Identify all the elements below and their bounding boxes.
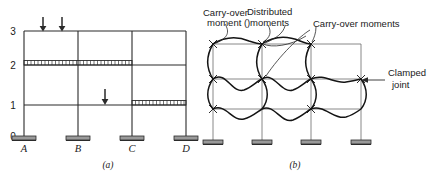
deflected-beam-1-bay2 [262, 108, 311, 121]
joint-clamp-marks [209, 40, 365, 113]
level-label-1: 1 [10, 100, 16, 111]
support-a [12, 136, 36, 141]
support-c [120, 136, 144, 141]
panel-a: 3 2 1 0 [10, 17, 198, 171]
support-b2 [252, 140, 272, 145]
point-load-2 [59, 17, 66, 32]
support-b3 [301, 140, 321, 145]
structural-frame-figure: 3 2 1 0 [0, 0, 430, 179]
column-label-d: D [181, 143, 190, 154]
frame-a-columns [24, 31, 186, 136]
level-label-2: 2 [10, 60, 16, 71]
column-label-c: C [128, 143, 136, 154]
label-clamped-line2: joint [391, 79, 410, 90]
deflected-beam-2-bay3 [311, 77, 361, 82]
leader-carry-over-long [266, 30, 310, 76]
frame-b-reference [213, 44, 361, 140]
column-label-a: A [20, 143, 28, 154]
frame-a-supports [12, 136, 198, 141]
deflected-col-4-story2 [361, 79, 366, 109]
support-b1 [203, 140, 223, 145]
label-clamped-line1: Clamped [388, 67, 426, 78]
column-label-b: B [75, 143, 82, 154]
label-distributed-line2: moments [250, 17, 289, 28]
clamped-joint-pointer [361, 77, 385, 83]
annotation-leaders [216, 24, 316, 76]
point-load-1 [40, 17, 47, 32]
deflected-col-3-story2 [311, 79, 316, 109]
deflected-beam-1-bay1 [213, 108, 262, 120]
label-carry-over-moments: Carry-over moments [313, 18, 400, 29]
label-paren-1: ) [247, 17, 250, 28]
deflected-col-3-story3 [306, 44, 311, 79]
frame-b-supports [203, 140, 371, 145]
caption-b: (b) [289, 160, 300, 171]
deflected-col-1-story2 [208, 79, 213, 109]
deflected-beam-1-bay3 [311, 108, 361, 117]
label-carry-over-moment-line2: moment [207, 17, 242, 28]
level-label-3: 3 [10, 26, 16, 37]
label-distributed-line1: Distributed [247, 6, 292, 17]
deflected-col-1-story3 [208, 44, 213, 79]
deflected-col-2-story3 [257, 44, 262, 79]
point-load-3 [102, 89, 109, 105]
support-d [174, 136, 198, 141]
deflected-col-2-story2 [262, 79, 267, 109]
distributed-load-level-1 [132, 101, 186, 106]
caption-a: (a) [102, 160, 113, 171]
point-loads [40, 17, 109, 105]
panel-b: Carry-over moment Distributed moments Ca… [203, 6, 426, 171]
support-b4 [351, 140, 371, 145]
frame-b-deflected-columns [208, 44, 367, 109]
leader-carry-over-right [312, 27, 316, 42]
support-b [66, 136, 90, 141]
